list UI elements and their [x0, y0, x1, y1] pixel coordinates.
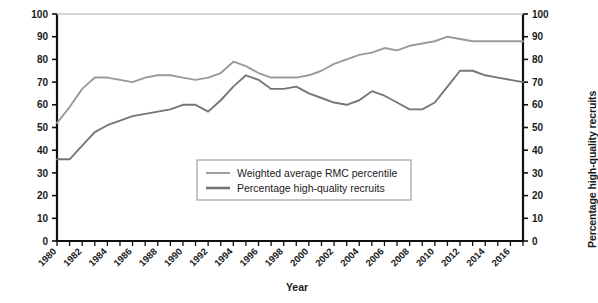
y-tick-label-left: 0: [42, 236, 48, 247]
x-tick-label: 1990: [162, 246, 185, 269]
x-tick-label: 1996: [237, 246, 260, 269]
y-tick-label-left: 70: [37, 77, 49, 88]
y-tick-label-left: 80: [37, 54, 49, 65]
y-tick-label-right: 70: [532, 77, 544, 88]
x-tick-label: 2012: [439, 246, 462, 269]
x-tick-label: 1988: [136, 246, 159, 269]
y-tick-label-left: 10: [37, 213, 49, 224]
x-tick-label: 2006: [363, 246, 386, 269]
y-tick-label-right: 100: [532, 9, 549, 20]
x-tick-label: 2000: [288, 246, 311, 269]
x-tick-label: 2008: [388, 246, 411, 269]
legend-label-1: Weighted average RMC percentile: [237, 167, 397, 179]
x-tick-label: 1984: [86, 245, 109, 268]
x-tick-label: 2002: [313, 246, 336, 269]
y-tick-label-left: 40: [37, 145, 49, 156]
y-tick-label-left: 100: [31, 9, 48, 20]
y-tick-label-right: 0: [532, 236, 538, 247]
x-tick-label: 1994: [212, 245, 235, 268]
y-tick-label-right: 90: [532, 31, 544, 42]
x-tick-label: 1992: [187, 246, 210, 269]
series-line-2: [57, 71, 523, 160]
x-tick-label: 2010: [414, 246, 437, 269]
y-tick-label-right: 80: [532, 54, 544, 65]
y-tick-label-right: 30: [532, 168, 544, 179]
x-tick-label: 1980: [36, 246, 59, 269]
y-tick-label-right: 20: [532, 190, 544, 201]
y-tick-label-left: 20: [37, 190, 49, 201]
x-tick-label: 2016: [489, 246, 512, 269]
y-tick-label-left: 30: [37, 168, 49, 179]
x-tick-label: 2014: [464, 245, 487, 268]
y-tick-label-right: 40: [532, 145, 544, 156]
y-tick-label-left: 50: [37, 122, 49, 133]
x-tick-label: 1982: [61, 246, 84, 269]
x-tick-label: 1986: [111, 246, 134, 269]
x-tick-label: 2004: [338, 245, 361, 268]
y-tick-label-left: 60: [37, 99, 49, 110]
y-tick-label-right: 60: [532, 99, 544, 110]
y-tick-label-right: 50: [532, 122, 544, 133]
y-tick-label-left: 90: [37, 31, 49, 42]
y-tick-label-right: 10: [532, 213, 544, 224]
x-tick-label: 1998: [262, 246, 285, 269]
legend-label-2: Percentage high-quality recruits: [237, 182, 385, 194]
